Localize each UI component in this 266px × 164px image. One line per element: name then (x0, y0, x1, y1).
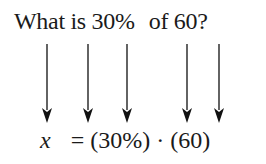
down-arrow-icon (41, 44, 53, 124)
down-arrow-icon (82, 44, 94, 124)
equation-expression: = (30%) · (60) (71, 127, 211, 153)
equation-variable: x (40, 127, 51, 153)
down-arrow-icon (213, 44, 225, 124)
down-arrow-icon (181, 44, 193, 124)
down-arrow-icon (121, 44, 133, 124)
equation: x= (30%) · (60) (40, 127, 210, 154)
question-part-2: of 60? (149, 8, 208, 34)
question-text: What is 30%of 60? (14, 8, 208, 35)
question-part-1: What is 30% (14, 8, 135, 34)
